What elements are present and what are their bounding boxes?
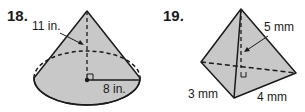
base-leg-a-label: 3 mm (188, 87, 218, 101)
height-label: 11 in. (32, 19, 60, 33)
cone-figure: 18. 11 in. 8 in. (7, 7, 140, 105)
problem-number: 18. (7, 7, 28, 24)
radius-label: 8 in. (103, 82, 126, 96)
height-label: 5 mm (264, 20, 294, 34)
geometry-figures: 18. 11 in. 8 in. 19. 5 mm 3 mm 4 mm (0, 0, 305, 112)
base-leg-b-label: 4 mm (257, 90, 287, 104)
pyramid-figure: 19. 5 mm 3 mm 4 mm (163, 7, 296, 104)
center-point (85, 78, 89, 82)
problem-number: 19. (163, 7, 184, 24)
